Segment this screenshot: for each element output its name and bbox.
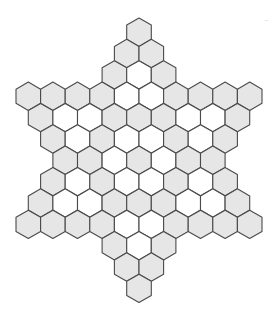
scan-artifact	[265, 20, 268, 21]
hex-cells	[16, 18, 262, 303]
hex-star-board	[0, 0, 277, 316]
